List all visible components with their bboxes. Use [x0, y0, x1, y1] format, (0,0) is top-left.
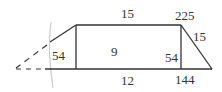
label-right-bottom: 144 [175, 72, 195, 87]
label-hypotenuse-top: 225 [175, 8, 195, 23]
label-top: 15 [121, 6, 134, 21]
label-right-triangle: 54 [165, 50, 179, 65]
label-hypotenuse-side: 15 [193, 29, 206, 44]
label-bottom: 12 [121, 73, 134, 88]
left-slant [50, 25, 76, 42]
left-slant-dashed [16, 45, 47, 68]
trapezoid-diagram: 15 12 54 9 54 225 15 144 [0, 0, 222, 92]
label-left-triangle: 54 [52, 48, 66, 63]
label-rectangle: 9 [111, 44, 118, 59]
